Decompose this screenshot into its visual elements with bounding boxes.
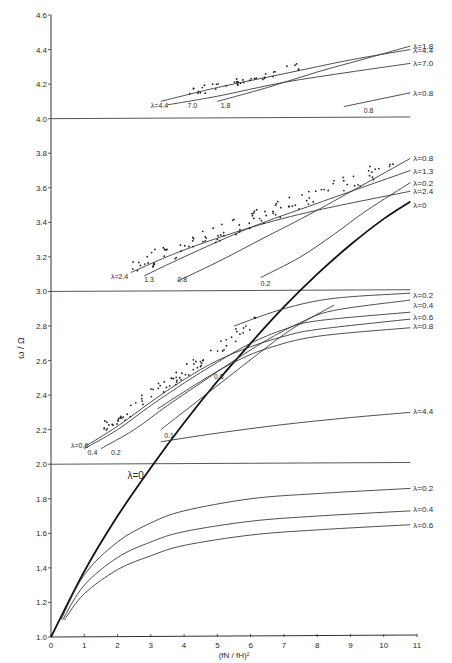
data-point (333, 180, 335, 182)
data-point (264, 76, 266, 78)
curve (131, 191, 410, 272)
data-point (165, 249, 167, 251)
data-point (298, 68, 300, 70)
data-point (150, 388, 152, 390)
data-point (262, 79, 264, 81)
y-tick-label: 4.6 (36, 11, 48, 20)
data-point (204, 84, 206, 86)
data-point (192, 240, 194, 242)
data-point (294, 64, 296, 66)
data-point (221, 223, 223, 225)
data-point (272, 76, 274, 78)
data-point (189, 93, 191, 95)
data-point (357, 184, 359, 186)
data-point (195, 361, 197, 363)
data-point (186, 363, 188, 365)
data-point (277, 201, 279, 203)
data-point (129, 416, 131, 418)
data-point (223, 349, 225, 351)
data-point (202, 230, 204, 232)
data-point (223, 232, 225, 234)
curve-label: 1.3 (144, 276, 154, 283)
y-tick-label: 4.2 (36, 80, 48, 89)
curve-label: 1.8 (221, 102, 231, 109)
curve-label: 0.2 (111, 449, 121, 456)
curve-label: λ=0 (128, 470, 145, 481)
curve-label: λ=4.4 (413, 46, 433, 55)
y-tick-label: 3.4 (36, 218, 48, 227)
harmonic-line (51, 117, 410, 119)
y-tick-label: 2.4 (36, 391, 48, 400)
data-point (327, 190, 329, 192)
data-point (245, 325, 247, 327)
curve-label: 7.0 (187, 102, 197, 109)
data-point (170, 377, 172, 379)
data-point (369, 175, 371, 177)
data-point (174, 258, 176, 260)
data-point (197, 92, 199, 94)
data-point (204, 236, 206, 238)
data-point (188, 374, 190, 376)
data-point (225, 85, 227, 87)
x-tick-label: 7 (282, 641, 287, 650)
curve-label: λ=0.6 (413, 521, 433, 530)
x-tick-label: 5 (215, 641, 220, 650)
y-tick-label: 3.6 (36, 184, 48, 193)
data-point (225, 339, 227, 341)
curve-label: λ=4.4 (151, 102, 168, 109)
data-point (353, 175, 355, 177)
data-point (146, 256, 148, 258)
curve-label: 0.4 (88, 449, 98, 456)
data-point (308, 197, 310, 199)
data-point (236, 331, 238, 333)
data-point (159, 385, 161, 387)
data-point (239, 231, 241, 233)
curve-label: λ=0.6 (413, 313, 433, 322)
data-point (104, 420, 106, 422)
data-point (202, 87, 204, 89)
data-point (200, 366, 202, 368)
data-point (264, 211, 266, 213)
curve (84, 319, 410, 447)
data-point (220, 340, 222, 342)
data-point (153, 263, 155, 265)
data-point (308, 191, 310, 193)
data-point (185, 374, 187, 376)
data-point (158, 383, 160, 385)
data-point (202, 359, 204, 361)
data-point (163, 381, 165, 383)
data-point (217, 235, 219, 237)
y-tick-label: 4.4 (36, 46, 48, 55)
data-point (236, 78, 238, 80)
data-point (291, 205, 293, 207)
y-tick-label: 2.0 (36, 460, 48, 469)
data-point (219, 240, 221, 242)
data-point (135, 402, 137, 404)
data-point (180, 250, 182, 252)
curve-label: λ=0.2 (413, 291, 433, 300)
data-point (144, 263, 146, 265)
data-point (301, 194, 303, 196)
curve-label: 0.1 (164, 432, 174, 439)
data-point (323, 189, 325, 191)
data-point (204, 240, 206, 242)
data-point (147, 262, 149, 264)
data-point (226, 345, 228, 347)
data-point (239, 333, 241, 335)
data-point (321, 189, 323, 191)
data-point (242, 79, 244, 81)
curve (144, 171, 410, 276)
data-point (389, 165, 391, 167)
data-point (251, 213, 253, 215)
data-point (296, 63, 298, 65)
x-tick-label: 8 (315, 641, 320, 650)
data-point (280, 207, 282, 209)
data-point (231, 336, 233, 338)
data-point (139, 265, 141, 267)
data-point (372, 176, 374, 178)
curve-label: λ=0.8 (413, 154, 433, 163)
curve-label: λ=0.4 (413, 505, 433, 514)
data-point (108, 424, 110, 426)
curve-label: λ=0.2 (413, 484, 433, 493)
data-point (259, 218, 261, 220)
